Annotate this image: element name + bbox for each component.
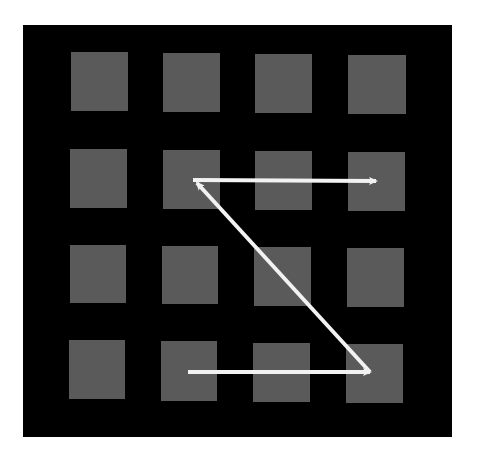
grid-cell-r2-c1 bbox=[70, 149, 127, 208]
grid-cell-r2-c3 bbox=[255, 151, 312, 210]
grid-cell-r3-c3 bbox=[254, 247, 311, 306]
grid-cell-r4-c1 bbox=[69, 340, 125, 399]
grid-cell-r4-c2 bbox=[161, 341, 217, 401]
grid-cell-r1-c2 bbox=[163, 53, 220, 112]
grid-cell-r2-c4 bbox=[348, 152, 405, 211]
grid-cell-r3-c2 bbox=[162, 246, 218, 304]
grid-cell-r2-c2 bbox=[163, 150, 220, 209]
grid-cell-r4-c4 bbox=[346, 344, 403, 403]
diagram-canvas bbox=[0, 0, 484, 461]
grid-cell-r1-c1 bbox=[71, 52, 128, 111]
grid-cell-r3-c4 bbox=[347, 248, 404, 307]
grid-cell-r3-c1 bbox=[70, 245, 126, 303]
grid-cell-r1-c4 bbox=[348, 55, 406, 114]
grid-cell-r4-c3 bbox=[253, 343, 310, 402]
grid-cell-r1-c3 bbox=[255, 54, 312, 113]
